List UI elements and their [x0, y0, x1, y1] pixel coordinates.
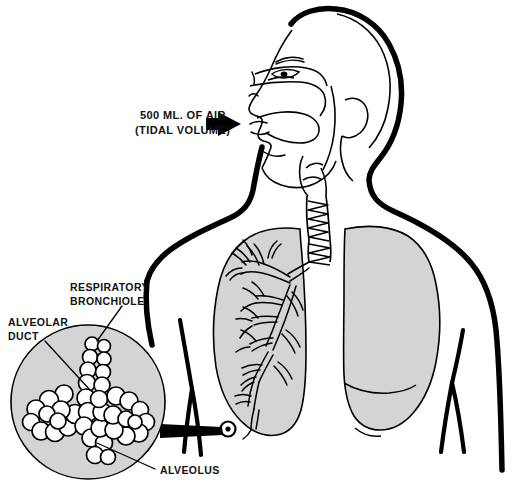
facial-features — [249, 57, 304, 156]
magnifier-leader — [160, 424, 223, 438]
head-profile — [249, 14, 390, 187]
oral-cavity-tongue — [257, 86, 335, 170]
alveolus-label: ALVEOLUS — [160, 464, 220, 476]
respiratory-bronchiole-label-line1: RESPIRATORY — [70, 281, 149, 293]
tidal-volume-label-line2: (TIDAL VOLUME) — [135, 124, 230, 136]
nasal-cavity — [250, 67, 327, 94]
respiratory-bronchiole-label-line2: BRONCHIOLE — [70, 295, 145, 307]
tidal-volume-label-line1: 500 ML. OF AIR — [140, 109, 226, 121]
left-lung-bronchial-tree — [214, 228, 309, 439]
right-lung-solid — [344, 226, 440, 436]
trachea — [307, 196, 331, 265]
right-side-contour — [441, 330, 464, 452]
diagram-canvas: 500 ML. OF AIR (TIDAL VOLUME) RESPIRATOR… — [0, 0, 527, 489]
alveolar-duct-label-line1: ALVEOLAR — [8, 316, 68, 328]
alveolar-duct-label-line2: DUCT — [8, 330, 39, 342]
respiratory-system-diagram: 500 ML. OF AIR (TIDAL VOLUME) RESPIRATOR… — [0, 0, 527, 489]
larynx — [300, 156, 327, 196]
